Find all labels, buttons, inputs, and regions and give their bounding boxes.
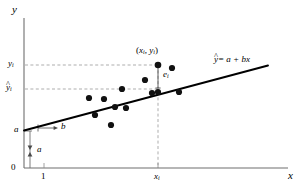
scatter-point (86, 95, 92, 101)
highlighted-point-label: (xi, yi) (136, 46, 158, 55)
scatter-point (142, 77, 148, 83)
intercept-brace-label: a (37, 145, 42, 154)
scatter-point (149, 90, 155, 96)
residual-label: ei (163, 70, 169, 79)
x-axis-title: x (288, 170, 293, 181)
line-equation-yhat-wrap: ^y (214, 55, 218, 64)
x-tick-label-one: 1 (41, 172, 46, 181)
y-tick-label-yhat-accent: ^ (6, 80, 10, 89)
x-tick-label-xi-sub: i (158, 175, 160, 181)
scatter-point (112, 104, 118, 110)
y-axis-title: y (12, 4, 17, 15)
y-tick-label-yi: yi (8, 59, 14, 68)
y-tick-label-yhat: ^yi (6, 83, 12, 92)
intercept-label: a (14, 125, 19, 134)
diagram-canvas (0, 0, 302, 194)
scatter-point-highlighted (155, 62, 162, 69)
scatter-point (176, 89, 182, 95)
intercept-arrow-icon (28, 145, 33, 150)
intercept-arrow-icon-lower (28, 152, 33, 157)
scatter-point (108, 122, 114, 128)
scatter-point (101, 96, 107, 102)
scatter-point (123, 105, 129, 111)
scatter-point (169, 65, 175, 71)
scatter-point (155, 89, 161, 95)
slope-label: b (61, 122, 66, 131)
x-tick-label-xi: xi (154, 172, 160, 181)
y-tick-label-yhat-sub: i (10, 86, 12, 92)
line-equation-hat: ^ (214, 52, 218, 61)
line-equation-label: ^y= a + bx (214, 55, 250, 64)
line-equation-rest: = a + bx (218, 54, 250, 64)
scatter-point (92, 112, 98, 118)
point-label-close: ) (155, 45, 158, 55)
y-tick-label-yhat-base-wrap: ^y (6, 83, 10, 92)
y-tick-label-yi-sub: i (12, 62, 14, 68)
residual-label-sub: i (167, 73, 169, 79)
regression-diagram: y x 0 1 xi yi ^yi (xi, yi) ei a a b ^y= … (0, 0, 302, 194)
scatter-point (119, 86, 125, 92)
slope-run-arrow-icon (54, 126, 58, 130)
origin-label: 0 (11, 163, 16, 172)
